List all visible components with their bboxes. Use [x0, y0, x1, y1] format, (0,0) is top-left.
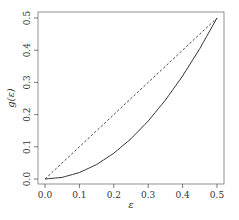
- x-tick-label: 0.2: [107, 190, 121, 200]
- y-axis-label: g(ε): [5, 88, 16, 108]
- x-tick-label: 0.5: [210, 190, 225, 200]
- x-tick-label: 0.4: [175, 190, 190, 200]
- x-axis-label: ε: [128, 199, 133, 210]
- x-tick-label: 0.0: [38, 190, 53, 200]
- y-tick-label: 0.2: [22, 107, 32, 121]
- y-tick-label: 0.3: [22, 75, 32, 90]
- y-tick-label: 0.4: [22, 43, 32, 58]
- x-axis: 0.00.10.20.30.40.5: [38, 184, 225, 200]
- y-axis: 0.00.10.20.30.40.5: [22, 11, 38, 187]
- x-tick-label: 0.3: [141, 190, 156, 200]
- y-tick-label: 0.5: [22, 11, 32, 26]
- dashed-identity-line: [45, 18, 217, 179]
- line-chart: 0.00.10.20.30.40.5 0.00.10.20.30.40.5 ε …: [0, 0, 239, 220]
- x-tick-label: 0.1: [72, 190, 86, 200]
- y-tick-label: 0.0: [22, 172, 32, 187]
- y-tick-label: 0.1: [22, 140, 32, 154]
